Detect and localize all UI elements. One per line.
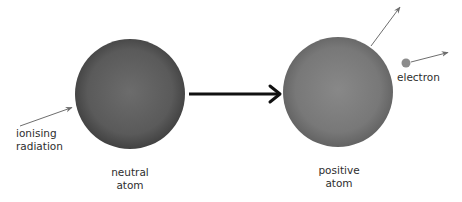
ionising-radiation-line2: radiation — [16, 140, 63, 153]
neutral-atom-line2: atom — [111, 179, 149, 192]
neutral-atom-line1: neutral — [111, 166, 149, 179]
radiation-exit-arrow — [371, 7, 400, 46]
ionising-radiation-line1: ionising — [16, 127, 63, 140]
positive-atom-line2: atom — [318, 177, 359, 190]
process-arrow — [189, 86, 280, 102]
ionising-radiation-label: ionising radiation — [16, 127, 63, 153]
electron-label: electron — [397, 71, 440, 84]
electron-particle — [402, 59, 411, 68]
electron-text: electron — [397, 71, 440, 84]
radiation-arrow — [20, 108, 72, 127]
ionisation-diagram: ionising radiation neutral atom positive… — [0, 0, 462, 202]
neutral-atom — [75, 39, 185, 149]
neutral-atom-label: neutral atom — [111, 166, 149, 192]
diagram-graphics — [0, 0, 462, 202]
positive-atom — [283, 37, 393, 147]
positive-atom-line1: positive — [318, 164, 359, 177]
electron-arrow — [411, 53, 448, 63]
positive-atom-label: positive atom — [318, 164, 359, 190]
